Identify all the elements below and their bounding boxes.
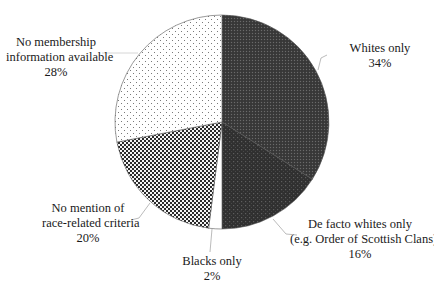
label-no-mention: No mention of race-related criteria 20% (42, 201, 134, 246)
leader-line-blacks-only (210, 229, 212, 252)
label-no-membership-pct: 28% (6, 65, 106, 80)
label-no-membership-text-1: No membership (6, 35, 106, 50)
label-no-membership-text-2: information available (6, 50, 106, 65)
label-no-mention-text-1: No mention of (42, 201, 134, 216)
label-blacks-only-pct: 2% (172, 269, 252, 284)
label-no-membership: No membership information available 28% (6, 35, 106, 80)
label-de-facto: De facto whites only (e.g. Order of Scot… (290, 217, 430, 262)
label-de-facto-text-2: (e.g. Order of Scottish Clans) (290, 232, 430, 247)
label-blacks-only-text: Blacks only (172, 254, 252, 269)
label-de-facto-pct: 16% (290, 247, 430, 262)
label-no-mention-pct: 20% (42, 231, 134, 246)
label-blacks-only: Blacks only 2% (172, 254, 252, 284)
label-whites-only-text: Whites only (330, 41, 430, 56)
label-whites-only: Whites only 34% (330, 41, 430, 71)
leader-line-whites-only (318, 55, 327, 70)
slice-no-membership (115, 15, 222, 142)
label-whites-only-pct: 34% (330, 56, 430, 71)
label-no-mention-text-2: race-related criteria (42, 216, 134, 231)
label-de-facto-text-1: De facto whites only (290, 217, 430, 232)
